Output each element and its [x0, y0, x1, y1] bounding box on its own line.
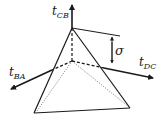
t-dc-sub: DC: [144, 62, 157, 71]
hidden-edges: [37, 61, 129, 111]
t-cb-sub: CB: [57, 11, 69, 20]
tetrahedron-diagram: [0, 0, 162, 124]
label-t-cb: tCB: [52, 5, 69, 20]
label-t-dc: tDC: [139, 56, 156, 71]
sigma-reference-line: [72, 28, 120, 36]
sigma-symbol: σ: [115, 43, 124, 58]
label-t-ba: tBA: [9, 66, 25, 81]
label-sigma: σ: [115, 44, 124, 57]
t-ba-sub: BA: [14, 72, 26, 81]
